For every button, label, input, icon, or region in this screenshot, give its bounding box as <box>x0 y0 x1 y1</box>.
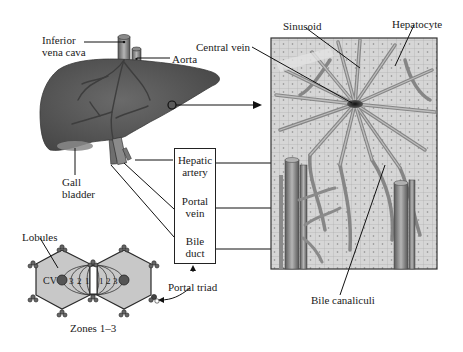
label-central-vein: Central vein <box>196 41 250 53</box>
label-hepatocyte: Hepatocyte <box>392 18 442 30</box>
zone-right-1: 1 <box>99 275 104 287</box>
zoom-arrow-icon <box>253 101 262 109</box>
label-ivc-line1: Inferior <box>42 34 76 46</box>
box-item-portal-vein: Portal vein <box>175 195 215 219</box>
zone-right-2: 2 <box>106 275 111 287</box>
liver-diagram: Inferior vena cava Aorta Gall bladder He… <box>0 0 463 352</box>
label-bile-canaliculi: Bile canaliculi <box>311 294 375 306</box>
box-item-hepatic-artery: Hepatic artery <box>175 154 215 178</box>
label-zones: Zones 1–3 <box>70 322 116 334</box>
zone-left-2: 2 <box>77 275 82 287</box>
zone-left-3: 3 <box>69 275 74 287</box>
label-gall-line1: Gall <box>62 176 81 188</box>
label-portal-triad: Portal triad <box>168 281 217 293</box>
label-ivc-line2: vena cava <box>42 46 86 58</box>
zone-left-1: 1 <box>85 275 90 287</box>
box-up-arrow-icon <box>190 265 196 271</box>
lobule-microstructure <box>271 38 437 269</box>
box-item-bile-duct: Bile duct <box>175 235 215 259</box>
label-gall-line2: bladder <box>62 188 95 200</box>
label-lobules: Lobules <box>22 231 57 243</box>
zone-right-3: 3 <box>113 275 118 287</box>
portal-triad-box: Hepatic artery Portal vein Bile duct <box>174 148 216 264</box>
label-aorta: Aorta <box>172 53 197 65</box>
label-cv: CV <box>43 275 57 287</box>
label-sinusoid: Sinusoid <box>283 20 322 32</box>
